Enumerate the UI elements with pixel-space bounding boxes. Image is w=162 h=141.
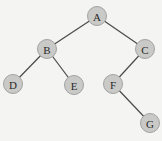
node-e: E: [65, 76, 84, 95]
tree-diagram: A B C D E F G: [0, 0, 162, 141]
node-a-label: A: [93, 11, 101, 23]
tree-svg: A B C D E F G: [0, 0, 162, 141]
node-b-label: B: [43, 44, 50, 56]
node-f: F: [104, 75, 123, 94]
node-d: D: [4, 75, 23, 94]
node-a: A: [88, 7, 107, 26]
node-b: B: [38, 40, 57, 59]
node-c: C: [136, 40, 155, 59]
node-g: G: [141, 114, 160, 133]
node-f-label: F: [110, 79, 116, 91]
node-e-label: E: [71, 80, 78, 92]
edges-layer: [13, 16, 150, 123]
node-g-label: G: [146, 118, 154, 130]
node-c-label: C: [141, 44, 148, 56]
node-d-label: D: [9, 79, 17, 91]
